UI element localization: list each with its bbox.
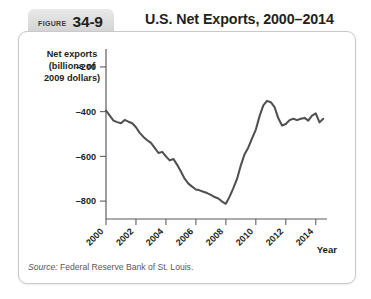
chart-panel: Net exports (billions of 2009 dollars) –… — [18, 31, 356, 284]
axis-lines — [106, 49, 327, 219]
x-tick-label: 2014 — [294, 226, 316, 248]
x-tick-label: 2012 — [264, 226, 285, 247]
x-tick-marks — [106, 219, 316, 225]
x-tick-label: 2002 — [114, 226, 135, 247]
y-tick-label: –400 — [76, 107, 96, 117]
line-chart-svg: –200–400–600–800 20002002200420062008201… — [19, 32, 357, 285]
figure-tag-number: 34-9 — [73, 13, 103, 31]
y-tick-marks — [100, 67, 106, 201]
x-tick-label: 2006 — [174, 226, 195, 247]
y-tick-label: –800 — [76, 196, 96, 206]
y-tick-labels: –200–400–600–800 — [76, 62, 96, 206]
source-text: Federal Reserve Bank of St. Louis. — [60, 262, 193, 272]
page-title: U.S. Net Exports, 2000–2014 — [145, 11, 334, 27]
source-label: Source: — [28, 262, 58, 272]
x-tick-label: 2010 — [234, 226, 255, 247]
figure-container: Figure 34-9 U.S. Net Exports, 2000–2014 … — [0, 0, 371, 299]
y-tick-label: –200 — [76, 62, 96, 72]
x-axis-title: Year — [317, 244, 337, 255]
source-note: Source: Federal Reserve Bank of St. Loui… — [28, 262, 193, 272]
figure-tag-word: Figure — [38, 16, 67, 28]
x-tick-label: 2008 — [204, 226, 225, 247]
y-tick-label: –600 — [76, 152, 96, 162]
plot-area: –200–400–600–800 20002002200420062008201… — [19, 32, 357, 285]
x-tick-label: 2004 — [144, 226, 166, 248]
net-exports-line — [106, 101, 323, 204]
x-tick-label: 2000 — [84, 226, 105, 247]
x-tick-labels: 20002002200420062008201020122014 — [84, 226, 316, 248]
